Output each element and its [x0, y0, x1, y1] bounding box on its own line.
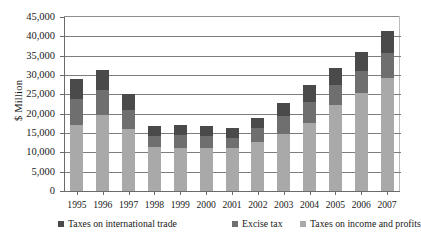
y-tick-label: 45,000 [0, 12, 55, 22]
bar-column [355, 52, 368, 191]
bar-column [251, 118, 264, 191]
bar-column [226, 128, 239, 191]
bar-column [96, 70, 109, 191]
bar-segment [96, 70, 109, 90]
x-tick-mark [284, 191, 285, 195]
bar-segment [355, 52, 368, 71]
bar-segment [251, 118, 264, 128]
bar-segment [381, 78, 394, 191]
legend-label: Excise tax [242, 219, 283, 229]
x-tick-mark [310, 191, 311, 195]
bar-segment [381, 31, 394, 53]
bar-segment [122, 110, 135, 129]
y-tick-label: 15,000 [0, 128, 55, 138]
bar-column [148, 126, 161, 191]
legend-label: Taxes on income and profits [310, 219, 421, 229]
bar-segment [96, 115, 109, 191]
y-tick-label: 25,000 [0, 89, 55, 99]
bar-segment [174, 148, 187, 191]
bar-segment [303, 85, 316, 102]
x-tick-mark [77, 191, 78, 195]
bar-segment [277, 134, 290, 191]
bar-segment [148, 147, 161, 191]
legend-swatch-icon [232, 221, 238, 227]
bar-segment [251, 142, 264, 191]
x-tick-mark [103, 191, 104, 195]
bar-column [174, 125, 187, 191]
x-tick-mark [154, 191, 155, 195]
bar-segment [70, 125, 83, 192]
bar-segment [148, 126, 161, 136]
bar-segment [174, 125, 187, 135]
legend-item: Taxes on international trade [58, 219, 177, 229]
bar-segment [226, 148, 239, 191]
bar-segment [122, 94, 135, 111]
legend-item: Taxes on income and profits [300, 219, 421, 229]
y-tick-label: 0 [0, 186, 55, 196]
x-tick-label: 2007 [370, 199, 404, 210]
bar-segment [329, 68, 342, 85]
bar-segment [355, 71, 368, 93]
y-tick-label: 35,000 [0, 51, 55, 61]
bar-segment [226, 128, 239, 137]
bar-segment [277, 116, 290, 134]
bar-segment [200, 136, 213, 148]
bar-column [70, 79, 83, 191]
bar-segment [200, 126, 213, 136]
bar-column [122, 94, 135, 191]
chart-legend: Taxes on international tradeExcise taxTa… [0, 219, 410, 233]
legend-swatch-icon [58, 221, 64, 227]
bar-segment [329, 85, 342, 105]
y-tick-label: 20,000 [0, 109, 55, 119]
x-tick-mark [258, 191, 259, 195]
bar-segment [251, 128, 264, 142]
x-tick-mark [387, 191, 388, 195]
bar-column [303, 85, 316, 191]
y-tick-label: 30,000 [0, 70, 55, 80]
bar-segment [355, 93, 368, 191]
y-tick-label: 40,000 [0, 31, 55, 41]
x-tick-mark [180, 191, 181, 195]
bar-segment [277, 103, 290, 116]
legend-swatch-icon [300, 221, 306, 227]
legend-item: Excise tax [232, 219, 283, 229]
bar-segment [148, 136, 161, 147]
x-tick-mark [335, 191, 336, 195]
bar-segment [70, 79, 83, 99]
bar-segment [96, 90, 109, 115]
bar-segment [303, 123, 316, 191]
bar-column [381, 31, 394, 191]
x-tick-mark [129, 191, 130, 195]
bar-segment [226, 138, 239, 148]
bar-column [200, 126, 213, 191]
bar-segment [70, 99, 83, 125]
x-tick-mark [361, 191, 362, 195]
bar-segment [303, 102, 316, 123]
bar-segment [329, 105, 342, 191]
bar-series-container [64, 17, 400, 191]
bar-segment [381, 53, 394, 77]
bar-column [277, 103, 290, 191]
y-tick-label: 5,000 [0, 167, 55, 177]
x-tick-mark [206, 191, 207, 195]
bar-column [329, 68, 342, 191]
legend-label: Taxes on international trade [68, 219, 177, 229]
bar-segment [200, 148, 213, 191]
y-tick-label: 10,000 [0, 147, 55, 157]
bar-segment [122, 129, 135, 191]
x-tick-mark [232, 191, 233, 195]
bar-segment [174, 135, 187, 148]
